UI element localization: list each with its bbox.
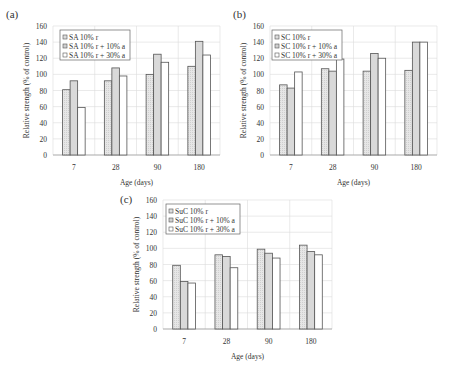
y-axis-label: Relative strength (% of control) [132, 216, 141, 312]
bar [371, 53, 379, 155]
chart-panel-b: (b)02040608010012014016072890180Age (day… [233, 8, 437, 187]
x-tick-label: 28 [112, 163, 120, 172]
bar [223, 256, 231, 329]
x-tick-label: 28 [329, 163, 337, 172]
legend-entry: SC 10% r + 10% a [281, 42, 338, 51]
panel-label: (c) [120, 193, 133, 206]
y-tick-label: 20 [150, 309, 158, 318]
bar [412, 42, 420, 155]
legend-swatch [63, 53, 67, 57]
legend-entry: SuC 10% r + 30% a [175, 225, 236, 234]
bar [265, 253, 273, 329]
figure-bar-charts: (a)02040608010012014016072890180Age (day… [0, 0, 457, 373]
y-tick-label: 140 [253, 38, 265, 47]
y-tick-label: 60 [40, 103, 48, 112]
bar [119, 76, 127, 155]
x-tick-label: 90 [265, 337, 273, 346]
bar [203, 55, 211, 155]
bar [321, 69, 329, 155]
x-tick-label: 90 [154, 163, 162, 172]
y-tick-label: 140 [146, 212, 158, 221]
chart-panel-c: (c)02040608010012014016072890180Age (day… [120, 193, 332, 361]
x-axis-label: Age (days) [120, 178, 154, 187]
y-tick-label: 160 [36, 22, 48, 31]
bar [363, 71, 371, 155]
bar [154, 54, 162, 155]
legend-entry: SA 10% r + 10% a [69, 42, 126, 51]
y-tick-label: 100 [36, 70, 48, 79]
legend-entry: SC 10% r + 30% a [281, 51, 338, 60]
legend-entry: SuC 10% r + 10% a [175, 216, 236, 225]
bar [280, 85, 288, 155]
bar [180, 281, 188, 329]
legend-swatch [169, 218, 173, 222]
x-axis-label: Age (days) [231, 352, 265, 361]
legend-swatch [169, 227, 173, 231]
bar [215, 255, 223, 329]
legend: SuC 10% rSuC 10% r + 10% aSuC 10% r + 30… [166, 204, 240, 234]
panel-label: (a) [6, 8, 19, 21]
y-tick-label: 40 [150, 293, 158, 302]
y-tick-label: 100 [253, 70, 265, 79]
bar [329, 71, 337, 155]
legend-swatch [275, 35, 279, 39]
legend-swatch [63, 35, 67, 39]
bar [112, 68, 120, 155]
bar [230, 268, 238, 329]
y-tick-label: 140 [36, 38, 48, 47]
x-tick-label: 180 [305, 337, 317, 346]
bar [195, 41, 203, 155]
y-tick-label: 40 [40, 119, 48, 128]
y-tick-label: 120 [146, 228, 158, 237]
y-axis-label: Relative strength (% of control) [22, 42, 31, 138]
chart-panel-a: (a)02040608010012014016072890180Age (day… [6, 8, 220, 187]
bar [272, 258, 280, 329]
x-tick-label: 180 [411, 163, 423, 172]
y-tick-label: 160 [253, 22, 265, 31]
bar [287, 88, 295, 155]
y-tick-label: 20 [40, 135, 48, 144]
y-tick-label: 60 [150, 277, 158, 286]
legend-swatch [275, 44, 279, 48]
y-tick-label: 80 [40, 87, 48, 96]
bar [78, 107, 86, 155]
legend-swatch [275, 53, 279, 57]
bar [315, 255, 323, 329]
legend-swatch [63, 44, 67, 48]
y-axis-label: Relative strength (% of control) [239, 42, 248, 138]
bar [70, 81, 78, 155]
bar [188, 283, 196, 329]
x-tick-label: 7 [182, 337, 186, 346]
bar [257, 249, 265, 329]
y-tick-label: 0 [153, 325, 157, 334]
y-tick-label: 20 [257, 135, 265, 144]
bar [336, 59, 344, 155]
legend: SA 10% rSA 10% r + 10% aSA 10% r + 30% a [60, 30, 130, 60]
bar [307, 252, 315, 329]
y-tick-label: 0 [260, 151, 264, 160]
bar [405, 70, 413, 155]
bar [173, 265, 181, 329]
bar [299, 245, 307, 329]
legend-entry: SA 10% r + 30% a [69, 51, 126, 60]
legend-swatch [169, 209, 173, 213]
x-axis-label: Age (days) [337, 178, 371, 187]
bar [188, 66, 196, 155]
y-tick-label: 60 [257, 103, 265, 112]
legend-entry: SA 10% r [69, 33, 99, 42]
x-tick-label: 28 [223, 337, 231, 346]
legend-entry: SuC 10% r [175, 207, 208, 216]
y-tick-label: 80 [150, 261, 158, 270]
bar [161, 62, 169, 155]
legend-entry: SC 10% r [281, 33, 311, 42]
bar [295, 72, 303, 155]
y-tick-label: 120 [36, 54, 48, 63]
legend: SC 10% rSC 10% r + 10% aSC 10% r + 30% a [272, 30, 342, 60]
x-tick-label: 7 [289, 163, 293, 172]
bar [63, 90, 71, 155]
y-tick-label: 80 [257, 87, 265, 96]
bar [378, 58, 386, 155]
y-tick-label: 120 [253, 54, 265, 63]
y-tick-label: 160 [146, 196, 158, 205]
y-tick-label: 0 [43, 151, 47, 160]
